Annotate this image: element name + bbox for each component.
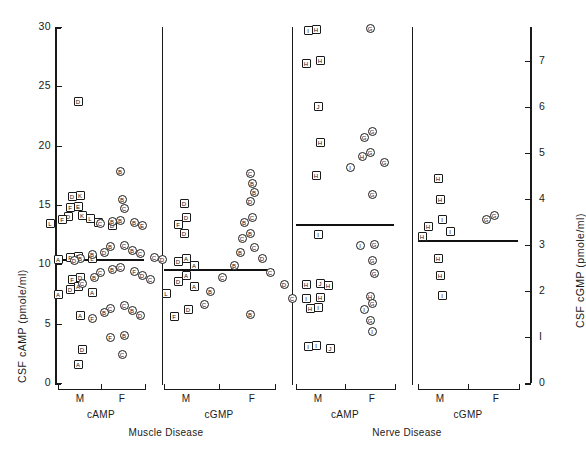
x-axis-sex-label: F — [108, 393, 136, 404]
data-point-male: F — [174, 220, 183, 229]
y-tick-label-right: 5 — [539, 146, 565, 158]
data-point-female: B — [246, 310, 255, 319]
data-point-female: D — [258, 254, 267, 263]
data-point-male: J — [326, 344, 335, 353]
x-axis-mid-tick — [101, 384, 102, 389]
data-point-female: D — [100, 248, 109, 257]
data-point-female: C — [120, 204, 129, 213]
data-point-male: D — [68, 192, 77, 201]
y-tick-right — [525, 61, 531, 62]
data-point-male: H — [312, 25, 321, 34]
data-point-female: G — [368, 127, 377, 136]
data-point-male: A — [54, 290, 63, 299]
data-point-male: I — [314, 303, 323, 312]
data-point-male: I — [438, 291, 447, 300]
data-point-female: B — [118, 195, 127, 204]
data-point-female: B — [90, 273, 99, 282]
data-point-male: J — [314, 102, 323, 111]
data-point-male: A — [182, 271, 191, 280]
data-point-female: B — [116, 167, 125, 176]
data-point-female: B — [240, 218, 249, 227]
data-point-female: B — [230, 261, 239, 270]
data-point-female: B — [108, 217, 117, 226]
data-point-female: B — [206, 287, 215, 296]
data-point-female: D — [246, 197, 255, 206]
x-axis-bracket — [58, 384, 146, 390]
data-point-male: L — [162, 289, 171, 298]
data-point-male: D — [184, 305, 193, 314]
y-tick-label-left: 15 — [21, 198, 51, 210]
data-point-male: D — [180, 199, 189, 208]
x-axis-bracket — [296, 384, 396, 390]
data-point-female: I — [356, 241, 365, 250]
y-tick-right — [525, 291, 531, 292]
data-point-female: G — [380, 158, 389, 167]
data-point-female: G — [368, 190, 377, 199]
data-point-female: D — [70, 256, 79, 265]
y-axis-title-right: CSF cGMP (pmole/ml) — [574, 213, 586, 328]
data-point-female: I — [346, 163, 355, 172]
data-point-female: B — [100, 308, 109, 317]
data-point-male: H — [316, 138, 325, 147]
data-point-female: E — [138, 221, 147, 230]
data-point-female: D — [136, 311, 145, 320]
data-point-female: B — [88, 250, 97, 259]
x-axis-mid-tick — [468, 384, 469, 389]
data-point-female: F — [106, 333, 115, 342]
y-tick-right — [525, 245, 531, 246]
y-tick-label-left: 25 — [21, 79, 51, 91]
data-point-male: D — [66, 285, 75, 294]
data-point-male: I — [312, 341, 321, 350]
x-axis-analyte-label: cGMP — [189, 409, 249, 420]
data-point-male: H — [316, 56, 325, 65]
data-point-male: H — [312, 171, 321, 180]
data-point-female: C — [136, 249, 145, 258]
data-point-male: H — [436, 195, 445, 204]
data-point-female: C — [146, 275, 155, 284]
y-tick-right — [525, 107, 531, 108]
data-point-female: C — [248, 213, 257, 222]
x-axis-analyte-label: cGMP — [438, 409, 498, 420]
data-point-female: C — [218, 273, 227, 282]
data-point-female: F — [88, 314, 97, 323]
data-point-female: G — [368, 256, 377, 265]
data-point-male: H — [418, 232, 427, 241]
data-point-male: H — [434, 174, 443, 183]
data-point-male: I — [438, 215, 447, 224]
data-point-female: G — [482, 215, 491, 224]
panel-divider — [412, 27, 413, 385]
data-point-female: C — [96, 219, 105, 228]
data-point-female: B — [108, 265, 117, 274]
data-point-female: D — [280, 280, 289, 289]
data-point-female: G — [370, 269, 379, 278]
data-point-male: I — [304, 26, 313, 35]
data-point-male: H — [302, 59, 311, 68]
y-axis-right — [530, 27, 532, 383]
group-label-nerve-disease: Nerve Disease — [342, 427, 472, 439]
data-point-female: I — [360, 305, 369, 314]
data-point-female: C — [238, 234, 247, 243]
data-point-male: H — [316, 293, 325, 302]
data-point-male: F — [66, 203, 75, 212]
x-axis-mid-tick — [345, 384, 346, 389]
y-tick-label-right: 0 — [539, 376, 565, 388]
data-point-female: C — [288, 294, 297, 303]
y-tick-right — [525, 153, 531, 154]
data-point-male: L — [46, 219, 55, 228]
data-point-female: G — [366, 148, 375, 157]
x-axis-sex-label: M — [304, 393, 332, 404]
y-tick-label-left: 30 — [21, 20, 51, 32]
data-point-female: G — [360, 133, 369, 142]
data-point-female: C — [116, 263, 125, 272]
y-axis-title-left: CSF cAMP (pmole/ml) — [16, 269, 28, 383]
group-label-muscle-disease: Muscle Disease — [101, 427, 231, 439]
data-point-female: G — [490, 211, 499, 220]
panel-divider — [162, 27, 163, 385]
y-tick-right — [525, 199, 531, 200]
x-axis-sex-label: M — [66, 393, 94, 404]
y-tick-label-right: 7 — [539, 54, 565, 66]
data-point-female: D — [158, 255, 167, 264]
panel-divider — [292, 27, 293, 385]
data-point-female: H — [358, 152, 367, 161]
x-axis-mid-tick — [219, 384, 220, 389]
